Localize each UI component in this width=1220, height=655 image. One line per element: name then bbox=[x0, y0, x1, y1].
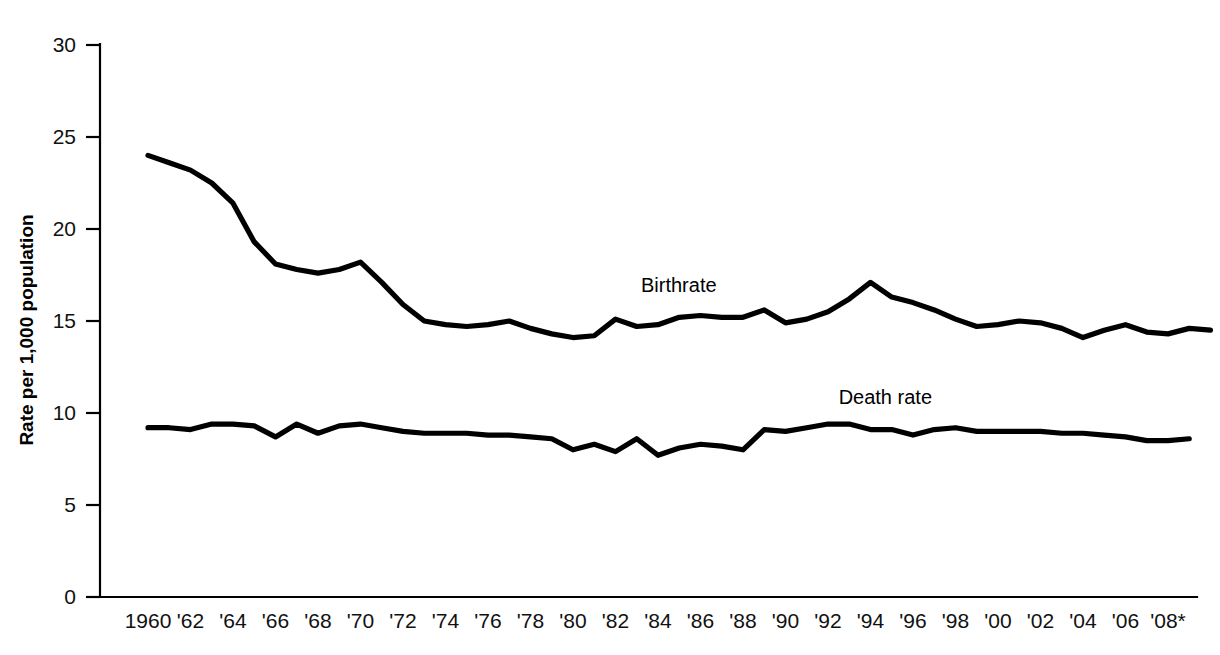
x-tick-label: '62 bbox=[177, 609, 204, 632]
x-tick-label: '94 bbox=[857, 609, 885, 632]
y-tick-label: 25 bbox=[53, 125, 76, 148]
x-tick-label: '00 bbox=[984, 609, 1011, 632]
x-tick-label: '74 bbox=[432, 609, 460, 632]
y-tick-label-group: 051015202530 bbox=[53, 33, 76, 608]
x-tick-label: '06 bbox=[1112, 609, 1139, 632]
series-line-birthrate bbox=[148, 155, 1211, 337]
x-tick-label: '92 bbox=[814, 609, 841, 632]
x-tick-label: '80 bbox=[559, 609, 586, 632]
chart-container: Rate per 1,000 population 051015202530 1… bbox=[0, 0, 1220, 655]
x-tick-label: '86 bbox=[687, 609, 714, 632]
y-tick-group bbox=[86, 45, 100, 597]
y-tick-label: 10 bbox=[53, 401, 76, 424]
x-tick-label: '66 bbox=[262, 609, 289, 632]
series-label-birthrate: Birthrate bbox=[641, 274, 717, 296]
x-tick-label-group: 1960'62'64'66'68'70'72'74'76'78'80'82'84… bbox=[125, 609, 1186, 632]
x-tick-label: '78 bbox=[517, 609, 544, 632]
x-tick-label: '88 bbox=[729, 609, 756, 632]
y-tick-label: 20 bbox=[53, 217, 76, 240]
y-axis-title: Rate per 1,000 population bbox=[16, 214, 37, 445]
x-tick-label: '90 bbox=[772, 609, 799, 632]
y-tick-label: 15 bbox=[53, 309, 76, 332]
x-tick-label: '76 bbox=[474, 609, 501, 632]
x-tick-label: '72 bbox=[389, 609, 416, 632]
x-tick-label: '04 bbox=[1069, 609, 1097, 632]
y-tick-label: 30 bbox=[53, 33, 76, 56]
x-tick-label: '84 bbox=[644, 609, 672, 632]
series-line-group bbox=[148, 155, 1211, 455]
x-tick-label: '82 bbox=[602, 609, 629, 632]
x-tick-label: '02 bbox=[1027, 609, 1054, 632]
x-tick-label: '98 bbox=[942, 609, 969, 632]
x-tick-label: '96 bbox=[899, 609, 926, 632]
birth-death-rate-line-chart: Rate per 1,000 population 051015202530 1… bbox=[0, 0, 1220, 655]
y-tick-label: 5 bbox=[64, 493, 76, 516]
x-tick-label: '08* bbox=[1150, 609, 1186, 632]
x-tick-label: '64 bbox=[219, 609, 247, 632]
x-tick-label: 1960 bbox=[125, 609, 172, 632]
series-line-death-rate bbox=[148, 424, 1189, 455]
x-tick-label: '70 bbox=[347, 609, 374, 632]
x-tick-label: '68 bbox=[304, 609, 331, 632]
series-label-death-rate: Death rate bbox=[839, 386, 932, 408]
y-tick-label: 0 bbox=[64, 585, 76, 608]
